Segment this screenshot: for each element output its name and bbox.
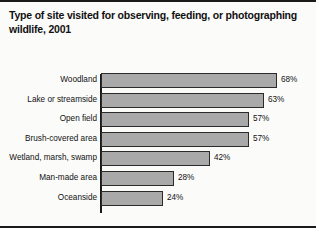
bar-category-label: Brush-covered area (0, 134, 97, 143)
chart-figure: Type of site visited for observing, feed… (0, 0, 316, 228)
bar (101, 93, 264, 108)
bar (101, 112, 249, 127)
bar (101, 73, 277, 88)
bar-category-label: Lake or streamside (0, 95, 97, 104)
bar-value-label: 42% (214, 153, 230, 162)
bar-category-label: Open field (0, 114, 97, 123)
bar-row: Wetland, marsh, swamp42% (0, 150, 316, 167)
bar-value-label: 63% (268, 95, 284, 104)
bar-category-label: Man-made area (0, 173, 97, 182)
bar-category-label: Wetland, marsh, swamp (0, 153, 97, 162)
bar-value-label: 57% (253, 134, 269, 143)
bar-row: Woodland68% (0, 72, 316, 89)
bar-row: Brush-covered area57% (0, 131, 316, 148)
bar (101, 171, 174, 186)
bar-value-label: 68% (281, 75, 297, 84)
bar (101, 191, 163, 206)
bar-value-label: 28% (178, 173, 194, 182)
bar-category-label: Oceanside (0, 193, 97, 202)
bar-row: Oceanside24% (0, 190, 316, 207)
bar-category-label: Woodland (0, 75, 97, 84)
bar (101, 132, 249, 147)
bar-row: Man-made area28% (0, 170, 316, 187)
bar-row: Lake or streamside63% (0, 92, 316, 109)
bar-row: Open field57% (0, 111, 316, 128)
chart-title: Type of site visited for observing, feed… (9, 9, 299, 36)
bar (101, 151, 210, 166)
plot-area: Woodland68%Lake or streamside63%Open fie… (0, 72, 316, 217)
bar-value-label: 57% (253, 114, 269, 123)
bar-value-label: 24% (167, 193, 183, 202)
